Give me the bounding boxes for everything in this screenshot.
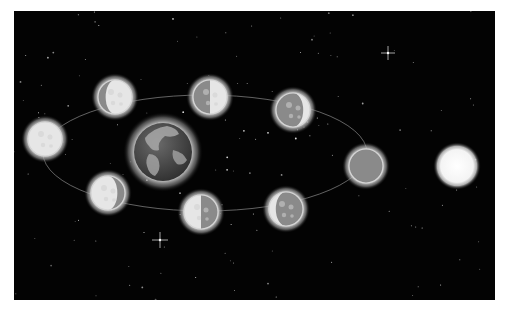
moon-phases-illustration xyxy=(14,11,495,300)
waning-crescent-icon xyxy=(269,86,317,134)
waxing-gibbous-icon xyxy=(84,169,132,217)
star-field xyxy=(14,11,480,300)
new-moon-icon xyxy=(342,142,390,190)
first-quarter-icon xyxy=(177,188,225,236)
waning-gibbous-icon xyxy=(91,73,139,121)
space-scene xyxy=(14,11,495,300)
sparkle-star-icon xyxy=(381,46,395,60)
sun-icon xyxy=(433,142,481,190)
full-moon-icon xyxy=(21,115,69,163)
last-quarter-icon xyxy=(186,73,234,121)
waxing-crescent-icon xyxy=(262,185,310,233)
sparkle-star-icon xyxy=(152,232,168,248)
earth-icon xyxy=(123,112,203,192)
